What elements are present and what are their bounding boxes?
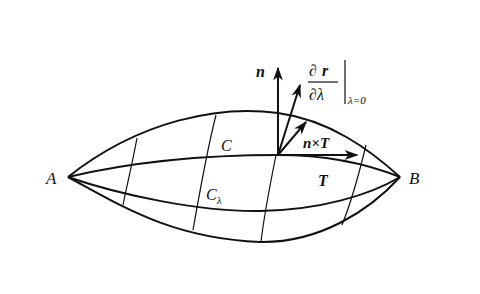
variation-vector-arrow (278, 85, 300, 155)
transverse-line-3 (261, 155, 276, 242)
curve-c-lambda-label: Cλ (206, 186, 222, 206)
n-cross-t-label: n×T (303, 135, 330, 151)
curve-c (68, 155, 400, 177)
tangent-vector-label: T (318, 172, 329, 189)
point-a-label: A (45, 169, 57, 188)
variation-denominator: ∂λ (309, 86, 324, 103)
diagram-canvas: A B C Cλ n n×T T ∂ r ∂λ λ=0 (0, 0, 480, 294)
variation-derivative-label: ∂ r ∂λ λ=0 (308, 60, 366, 106)
transverse-line-4 (342, 145, 366, 225)
transverse-line-2 (193, 115, 216, 230)
point-b-label: B (409, 169, 420, 188)
curve-c-lambda (68, 177, 400, 211)
evaluation-subscript: λ=0 (347, 94, 366, 106)
variation-numerator-partial: ∂ (309, 62, 317, 79)
variation-numerator-r: r (322, 62, 329, 79)
curve-c-label: C (221, 137, 232, 154)
normal-vector-label: n (256, 63, 265, 80)
